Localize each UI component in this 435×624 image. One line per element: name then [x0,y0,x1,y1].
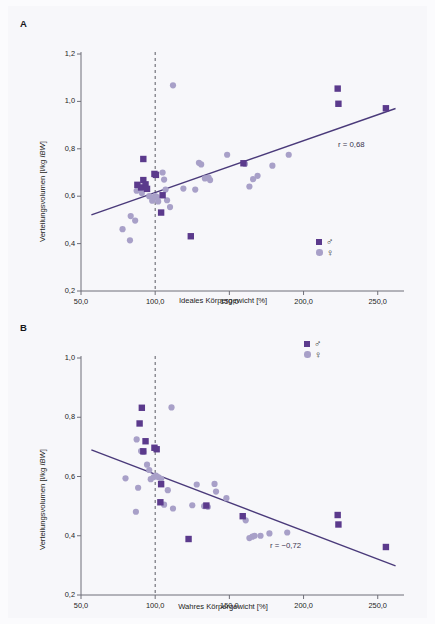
legend-item-male: ♂ [316,236,334,247]
panel-a-legend: ♂ ♀ [316,236,334,258]
panel-b-xtick-1: 100,0 [135,601,175,610]
panel-a-ytick-1: 0,4 [47,239,75,248]
panel-a-ytick-4: 1,0 [47,96,75,105]
panel-a-ytick-5: 1,2 [47,49,75,58]
panel-a-ytick-0: 0,2 [47,286,75,295]
panel-a-xtick-1: 100,0 [135,297,175,306]
panel-b-legend: ♂ ♀ [304,338,322,360]
panel-b-ytick-1: 0,4 [47,531,75,540]
legend-item-female: ♀ [304,349,322,360]
figure-page: A Verteilungsvolumen [l/kg IBW] Ideales … [0,0,435,624]
panel-b-xtick-2: 150,0 [209,601,249,610]
panel-b-xtick-4: 250,0 [358,601,398,610]
panel-b-ytick-0: 0,2 [47,590,75,599]
panel-b-xtick-0: 50,0 [61,601,101,610]
panel-b-ytick-4: 1,0 [47,353,75,362]
legend-item-female: ♀ [316,247,334,258]
male-square-marker-icon [316,239,322,245]
panel-a-xtick-0: 50,0 [61,297,101,306]
figure-frame: A Verteilungsvolumen [l/kg IBW] Ideales … [8,6,427,618]
panel-b-ytick-2: 0,6 [47,472,75,481]
panel-b-ytick-3: 0,8 [47,412,75,421]
panel-a-ytick-3: 0,8 [47,144,75,153]
female-symbol-icon: ♀ [315,350,323,360]
panel-a: A Verteilungsvolumen [l/kg IBW] Ideales … [8,10,427,310]
panel-a-correlation-annotation: r = 0,68 [338,140,365,149]
panel-b-xtick-3: 200,0 [284,601,324,610]
panel-b-correlation-annotation: r = −0,72 [270,541,301,550]
legend-item-male: ♂ [304,338,322,349]
male-symbol-icon: ♂ [314,339,322,349]
panel-a-xtick-3: 200,0 [284,297,324,306]
male-square-marker-icon [304,341,310,347]
panel-a-ytick-2: 0,6 [47,191,75,200]
panel-a-xtick-2: 150,0 [209,297,249,306]
female-circle-marker-icon [304,351,311,358]
male-symbol-icon: ♂ [326,237,334,247]
female-circle-marker-icon [316,249,323,256]
panel-a-xtick-4: 250,0 [358,297,398,306]
female-symbol-icon: ♀ [327,248,335,258]
panel-b: B Verteilungsvolumen [l/kg IBW] Wahres K… [8,314,427,614]
